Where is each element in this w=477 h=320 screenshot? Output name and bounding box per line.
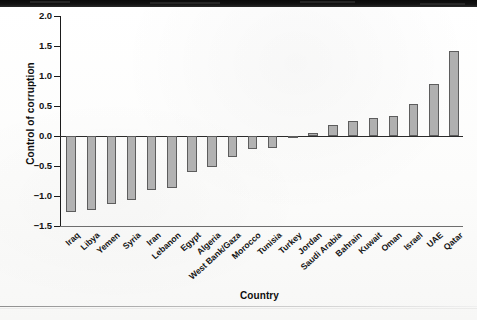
figure-bottom-rule [0,306,477,307]
y-axis-tick [54,46,60,47]
bar [248,136,258,149]
bar [107,136,117,204]
y-axis-tick-label: −1.5 [18,221,52,231]
bar [147,136,157,190]
bar [228,136,238,157]
y-axis-tick [54,106,60,107]
figure-page: 2.01.51.00.50.0−0.5−1.0−1.5 Control of c… [0,0,477,320]
bar [429,84,439,136]
x-axis-category-label: Syria [120,230,142,251]
y-axis-tick [54,196,60,197]
y-axis-tick [54,16,60,17]
bar [127,136,137,200]
figure-bottom-rule-shadow [0,308,477,309]
axis-bottom-rule [60,226,463,227]
y-axis-tick-label: 2.0 [18,11,52,21]
x-axis-category-label: Oman [380,230,405,254]
y-axis-tick [54,226,60,227]
x-axis-category-label: Israel [401,230,424,252]
bar [288,136,298,138]
y-axis-tick [54,136,60,137]
bar [369,118,379,136]
bar [348,121,358,136]
bar [308,133,318,136]
bar [167,136,177,188]
y-axis-tick [54,76,60,77]
y-axis-title: Control of corruption [25,24,36,204]
bar [268,136,278,148]
bar [409,104,419,136]
bar [187,136,197,172]
bar [87,136,97,210]
bar [207,136,217,167]
y-axis-tick [54,166,60,167]
bar [66,136,76,212]
zero-baseline [60,136,463,137]
scan-artifact-top-band [0,0,477,7]
x-axis-category-label: UAE [424,230,444,249]
x-axis-title: Country [0,290,477,301]
bar [389,116,399,136]
y-axis-line [60,16,61,227]
bar [328,125,338,136]
x-axis-category-label: Qatar [441,230,464,252]
bar [449,51,459,136]
